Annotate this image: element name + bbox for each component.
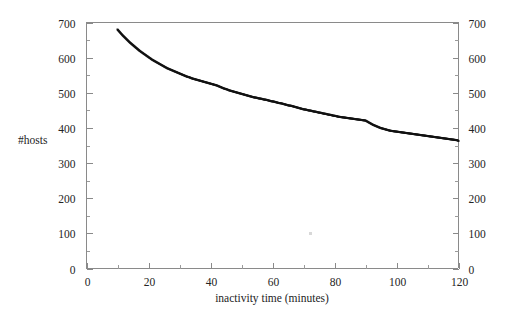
x-ticklabel: 100 — [389, 276, 407, 288]
y-ticklabel-left: 400 — [58, 123, 76, 135]
y-ticklabel-left: 0 — [70, 264, 76, 276]
y-ticklabel-right: 400 — [469, 123, 487, 135]
chart-canvas: 0100200300400500600700 01002003004005006… — [0, 0, 515, 328]
x-axis-title: inactivity time (minutes) — [215, 292, 329, 305]
y-ticklabel-right: 700 — [469, 18, 487, 30]
y-ticklabel-left: 500 — [58, 88, 76, 100]
x-ticklabel: 20 — [144, 276, 156, 288]
scan-artifact-speck — [309, 232, 312, 235]
y-ticklabel-right: 100 — [469, 228, 487, 240]
y-ticklabel-right: 0 — [469, 264, 475, 276]
y-ticklabel-left: 600 — [58, 53, 76, 65]
chart-background — [0, 0, 515, 328]
x-ticklabel: 40 — [206, 276, 218, 288]
data-point — [458, 140, 460, 142]
x-ticklabel: 120 — [451, 276, 469, 288]
y-axis-title: #hosts — [18, 134, 48, 146]
y-ticklabel-right: 200 — [469, 193, 487, 205]
y-ticklabel-right: 300 — [469, 158, 487, 170]
y-ticklabel-left: 700 — [58, 18, 76, 30]
y-ticklabel-left: 300 — [58, 158, 76, 170]
y-ticklabel-right: 500 — [469, 88, 487, 100]
y-ticklabel-left: 200 — [58, 193, 76, 205]
x-ticklabel: 60 — [268, 276, 280, 288]
figure-container: 0100200300400500600700 01002003004005006… — [0, 0, 515, 328]
y-ticklabel-right: 600 — [469, 53, 487, 65]
x-ticklabel: 80 — [330, 276, 342, 288]
y-ticklabel-left: 100 — [58, 228, 76, 240]
x-ticklabel: 0 — [85, 276, 91, 288]
